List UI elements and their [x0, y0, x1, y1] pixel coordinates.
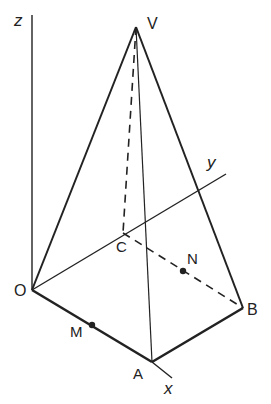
label-V: V	[147, 16, 158, 32]
point-N	[180, 268, 186, 274]
y-axis-label: y	[207, 154, 216, 171]
label-N: N	[187, 251, 198, 266]
label-C: C	[116, 239, 127, 254]
label-A: A	[133, 366, 143, 381]
pyramid-diagram	[0, 0, 271, 404]
point-M	[89, 322, 95, 328]
x-axis-label: x	[164, 380, 173, 397]
label-M: M	[70, 324, 83, 339]
edge-AB	[152, 308, 243, 362]
label-O: O	[14, 283, 26, 299]
edge-VC-hidden	[123, 27, 136, 233]
label-B: B	[247, 302, 258, 318]
x-axis	[152, 362, 172, 378]
edge-VA	[136, 27, 152, 362]
z-axis-label: z	[14, 12, 23, 29]
y-axis	[32, 174, 226, 290]
